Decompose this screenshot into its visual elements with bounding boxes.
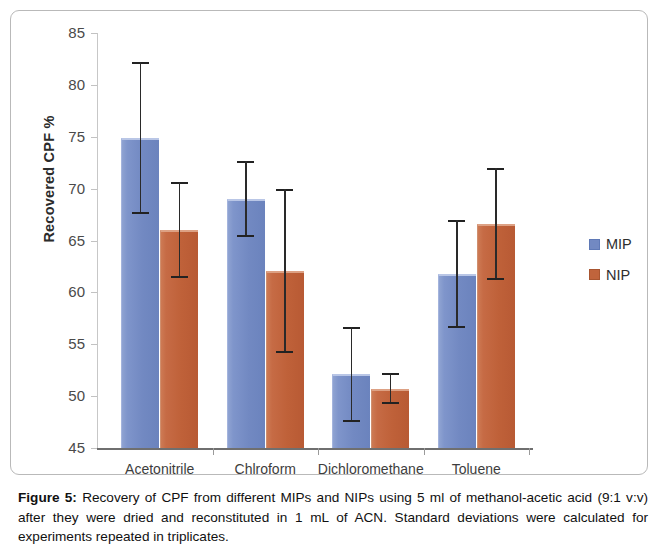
y-axis-tick-mark xyxy=(91,344,97,345)
x-axis-tick-mark xyxy=(318,448,319,455)
error-bar-cap-bottom xyxy=(276,351,293,353)
error-bar-mip-toluene xyxy=(438,220,476,328)
x-axis-tick-mark xyxy=(213,448,214,455)
y-axis-tick-label: 60 xyxy=(51,284,85,299)
chart-legend: MIPNIP xyxy=(589,237,632,298)
y-axis-tick-mark xyxy=(91,241,97,242)
figure-caption-text: Recovery of CPF from different MIPs and … xyxy=(18,490,648,544)
figure-caption: Figure 5: Recovery of CPF from different… xyxy=(18,488,648,547)
error-bar-cap-bottom xyxy=(343,420,360,422)
error-bar-stem xyxy=(390,373,392,404)
x-axis-category-label: Toluene xyxy=(386,461,566,477)
y-axis-tick-mark xyxy=(91,85,97,86)
error-bar-mip-chlroform xyxy=(227,161,265,238)
y-axis-tick-label: 85 xyxy=(51,25,85,40)
error-bar-nip-acetonitrile xyxy=(160,182,198,277)
error-bar-stem xyxy=(140,62,142,213)
y-axis-line xyxy=(97,33,98,449)
y-axis-tick-mark xyxy=(91,33,97,34)
error-bar-cap-bottom xyxy=(237,235,254,237)
error-bar-mip-acetonitrile xyxy=(121,62,159,213)
legend-item-nip[interactable]: NIP xyxy=(589,268,632,283)
error-bar-mip-dichloromethane xyxy=(332,327,370,422)
error-bar-cap-bottom xyxy=(382,402,399,404)
legend-label: MIP xyxy=(606,237,632,252)
bar-chart: 455055606570758085 Recovered CPF % Aceto… xyxy=(11,11,649,476)
error-bar-cap-bottom xyxy=(448,326,465,328)
legend-swatch-mip-icon xyxy=(589,239,600,250)
y-axis-tick-mark xyxy=(91,292,97,293)
y-axis-tick-label: 80 xyxy=(51,77,85,92)
error-bar-stem xyxy=(179,182,181,277)
error-bar-cap-bottom xyxy=(171,276,188,278)
error-bar-stem xyxy=(456,220,458,328)
figure-number: Figure 5: xyxy=(18,490,77,505)
error-bar-stem xyxy=(245,161,247,238)
error-bar-nip-chlroform xyxy=(266,189,304,353)
y-axis-tick-mark xyxy=(91,137,97,138)
y-axis-tick-label: 50 xyxy=(51,388,85,403)
error-bar-cap-bottom xyxy=(132,212,149,214)
legend-item-mip[interactable]: MIP xyxy=(589,237,632,252)
x-axis-line xyxy=(97,448,533,450)
legend-label: NIP xyxy=(606,268,630,283)
y-axis-title: Recovered CPF % xyxy=(41,99,57,259)
figure-panel: 455055606570758085 Recovered CPF % Aceto… xyxy=(10,10,648,475)
y-axis-tick-label: 55 xyxy=(51,336,85,351)
x-axis-tick-mark xyxy=(529,448,530,455)
error-bar-nip-dichloromethane xyxy=(371,373,409,404)
error-bar-cap-bottom xyxy=(487,278,504,280)
error-bar-stem xyxy=(495,168,497,280)
y-axis-tick-mark xyxy=(91,396,97,397)
y-axis-tick-label: 45 xyxy=(51,440,85,455)
legend-swatch-nip-icon xyxy=(589,269,600,280)
x-axis-tick-mark xyxy=(424,448,425,455)
error-bar-stem xyxy=(284,189,286,353)
error-bar-stem xyxy=(351,327,353,422)
error-bar-nip-toluene xyxy=(477,168,515,280)
y-axis-tick-mark xyxy=(91,189,97,190)
y-axis-tick-mark xyxy=(91,448,97,449)
